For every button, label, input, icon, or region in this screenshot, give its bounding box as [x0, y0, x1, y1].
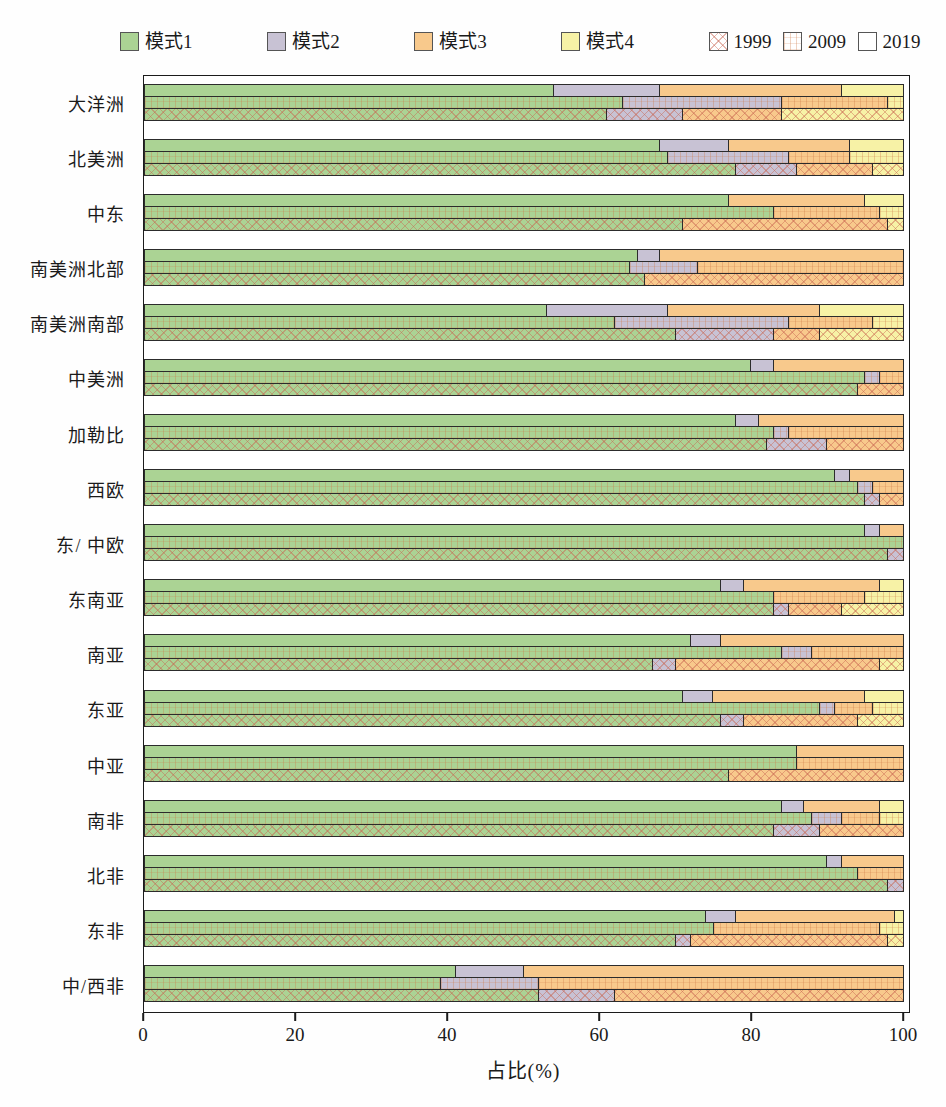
- y-axis-label: 东亚: [0, 690, 133, 729]
- bar-segment-模式3: [660, 250, 903, 261]
- bar-2019: [144, 855, 904, 868]
- bar-2009: [144, 316, 904, 329]
- bar-group: [144, 524, 909, 563]
- bar-segment-模式2: [812, 813, 842, 824]
- bar-segment-模式1: [145, 813, 812, 824]
- bar-segment-模式2: [623, 97, 782, 108]
- bar-segment-模式4: [880, 207, 903, 218]
- bar-group: [144, 359, 909, 398]
- bar-1999: [144, 493, 904, 506]
- bar-segment-模式4: [880, 923, 903, 934]
- bar-segment-模式1: [145, 880, 888, 891]
- bar-2019: [144, 414, 904, 427]
- bar-1999: [144, 989, 904, 1002]
- bar-segment-模式1: [145, 494, 865, 505]
- bar-segment-模式1: [145, 85, 554, 96]
- bar-segment-模式2: [865, 525, 880, 536]
- bar-1999: [144, 108, 904, 121]
- bar-1999: [144, 658, 904, 671]
- bar-segment-模式4: [880, 813, 903, 824]
- bar-segment-模式2: [865, 372, 880, 383]
- bar-segment-模式2: [706, 911, 736, 922]
- bar-segment-模式2: [782, 801, 805, 812]
- legend-label: 模式3: [439, 32, 487, 51]
- legend-item-1999: 1999: [709, 32, 783, 51]
- bar-segment-模式3: [880, 525, 903, 536]
- bar-segment-模式3: [744, 580, 880, 591]
- bar-segment-模式2: [751, 360, 774, 371]
- bar-segment-模式2: [691, 635, 721, 646]
- bar-segment-模式1: [145, 195, 729, 206]
- bar-segment-模式4: [880, 801, 903, 812]
- bar-segment-模式3: [789, 427, 903, 438]
- bar-segment-模式1: [145, 990, 539, 1001]
- mode4-swatch: [561, 32, 580, 51]
- bar-segment-模式2: [774, 427, 789, 438]
- bar-2019: [144, 249, 904, 262]
- bar-1999: [144, 824, 904, 837]
- bar-segment-模式3: [524, 966, 903, 977]
- bar-segment-模式4: [865, 592, 903, 603]
- bar-segment-模式1: [145, 152, 668, 163]
- x-axis-tick-label: 60: [590, 1025, 609, 1046]
- x-axis-tick: [294, 1013, 296, 1021]
- x-axis-tick-label: 20: [286, 1025, 305, 1046]
- bar-segment-模式4: [888, 97, 903, 108]
- bar-segment-模式3: [842, 813, 880, 824]
- bar-group: [144, 304, 909, 343]
- bar-segment-模式1: [145, 647, 782, 658]
- bar-segment-模式2: [676, 329, 775, 340]
- bar-segment-模式3: [729, 140, 850, 151]
- bar-segment-模式1: [145, 329, 676, 340]
- bar-segment-模式3: [645, 274, 903, 285]
- bar-group: [144, 414, 909, 453]
- bar-segment-模式3: [880, 372, 903, 383]
- bar-segment-模式1: [145, 966, 456, 977]
- bar-segment-模式2: [888, 880, 903, 891]
- bar-2019: [144, 469, 904, 482]
- bar-segment-模式1: [145, 715, 721, 726]
- bar-segment-模式4: [782, 109, 903, 120]
- y-axis-label: 南非: [0, 800, 133, 839]
- y-axis-label: 东非: [0, 911, 133, 950]
- bar-segment-模式3: [835, 703, 873, 714]
- bar-segment-模式3: [880, 494, 903, 505]
- y-axis-label: 北美洲: [0, 138, 133, 177]
- legend-label: 1999: [734, 32, 772, 51]
- bar-segment-模式4: [842, 604, 903, 615]
- bar-segment-模式2: [865, 494, 880, 505]
- bar-2009: [144, 867, 904, 880]
- bar-1999: [144, 769, 904, 782]
- bar-group: [144, 634, 909, 673]
- bar-segment-模式3: [789, 317, 872, 328]
- legend-item-2019: 2019: [858, 32, 932, 51]
- bar-segment-模式3: [789, 604, 842, 615]
- bar-segment-模式3: [676, 659, 881, 670]
- bar-segment-模式3: [789, 152, 850, 163]
- bar-segment-模式3: [729, 195, 865, 206]
- bar-segment-模式1: [145, 825, 774, 836]
- bar-segment-模式2: [820, 703, 835, 714]
- bar-segment-模式2: [683, 691, 713, 702]
- bar-segment-模式1: [145, 262, 630, 273]
- bar-2019: [144, 304, 904, 317]
- bar-segment-模式4: [895, 911, 903, 922]
- y-axis-label: 南美洲南部: [0, 304, 133, 343]
- bar-segment-模式1: [145, 592, 774, 603]
- bar-segment-模式3: [698, 262, 903, 273]
- bar-group: [144, 84, 909, 123]
- x-axis-tick-label: 100: [889, 1025, 918, 1046]
- bar-2019: [144, 524, 904, 537]
- bar-2009: [144, 371, 904, 384]
- bar-segment-模式4: [865, 691, 903, 702]
- bar-segment-模式2: [676, 935, 691, 946]
- bar-2019: [144, 965, 904, 978]
- bar-segment-模式2: [539, 990, 615, 1001]
- bar-group: [144, 965, 909, 1004]
- bar-group: [144, 139, 909, 178]
- year-2009-swatch: [783, 32, 802, 51]
- bar-segment-模式1: [145, 525, 865, 536]
- bar-segment-模式4: [850, 140, 903, 151]
- bar-1999: [144, 548, 904, 561]
- bar-segment-模式1: [145, 770, 729, 781]
